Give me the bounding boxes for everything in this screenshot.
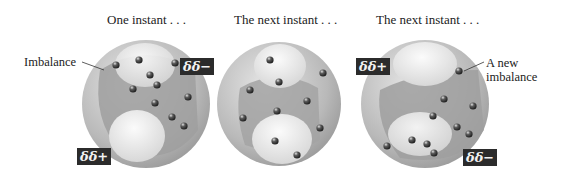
electron-icon [180, 122, 187, 129]
electron-icon [135, 56, 142, 63]
electron-icon [153, 81, 160, 88]
imbalance-label: Imbalance [24, 55, 76, 69]
electron-icon [455, 67, 462, 74]
electron-icon [440, 95, 447, 102]
electron-icon [429, 112, 436, 119]
badge-partial-negative-1: δδ− [180, 58, 214, 75]
caption-panel-1: One instant . . . [107, 12, 186, 28]
electron-icon [273, 107, 280, 114]
electron-icon [303, 97, 310, 104]
electron-icon [316, 124, 323, 131]
electron-icon [151, 99, 158, 106]
new-imbalance-line2: imbalance [486, 70, 537, 84]
electron-icon [465, 130, 472, 137]
electron-icon [383, 142, 390, 149]
electron-icon [146, 71, 153, 78]
electron-icon [430, 149, 437, 156]
electron-icon [184, 93, 191, 100]
badge-partial-positive-1: δδ+ [77, 148, 111, 165]
electron-icon [319, 69, 326, 76]
electron-icon [275, 78, 282, 85]
electron-icon [469, 102, 476, 109]
electron-icon [266, 56, 273, 63]
electron-icon [239, 114, 246, 121]
atom-panel-2 [217, 42, 341, 166]
electron-icon [168, 113, 175, 120]
electron-icon [408, 136, 415, 143]
caption-panel-3: The next instant . . . [376, 12, 479, 28]
new-imbalance-label: A new imbalance [486, 56, 537, 84]
electron-icon [271, 137, 278, 144]
new-imbalance-line1: A new [486, 56, 537, 70]
electron-icon [423, 140, 430, 147]
electron-icon [246, 86, 253, 93]
electron-icon [112, 61, 119, 68]
electron-icon [171, 59, 178, 66]
badge-partial-negative-3: δδ− [463, 149, 497, 166]
badge-partial-positive-3: δδ+ [356, 58, 390, 75]
electron-icon [129, 85, 136, 92]
caption-panel-2: The next instant . . . [234, 12, 337, 28]
electron-icon [293, 151, 300, 158]
electron-icon [453, 123, 460, 130]
